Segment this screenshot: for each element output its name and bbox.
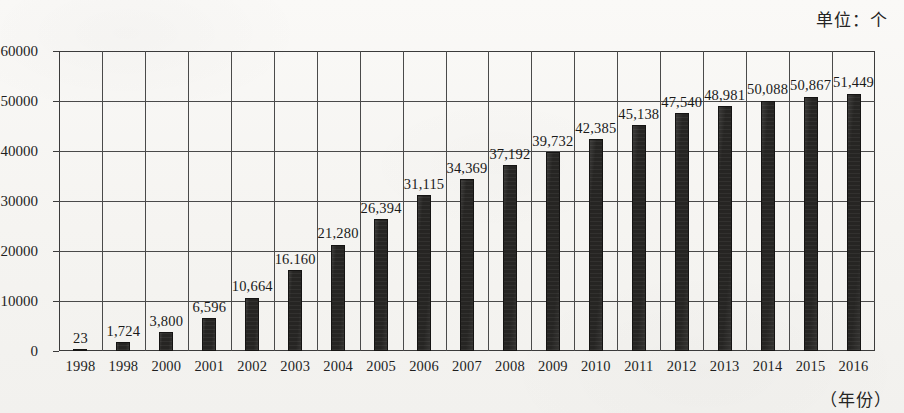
bar-value-label: 34,369: [446, 161, 487, 176]
y-axis-tick-label: 20000: [1, 243, 39, 260]
x-axis-tick-label: 2000: [151, 358, 181, 375]
x-axis-tick-label: 2003: [280, 358, 310, 375]
bar-column: 21,280: [317, 51, 360, 351]
bar: [503, 165, 517, 351]
x-axis-tick-label: 2006: [409, 358, 439, 375]
y-axis-tick-mark: [53, 351, 59, 352]
bar-value-label: 45,138: [618, 107, 659, 122]
bar-value-label: 47,540: [661, 95, 702, 110]
bar-value-label: 50,088: [747, 82, 788, 97]
plot-area: 231,7243,8006,59610,66416.16021,28026,39…: [59, 51, 875, 351]
bar-value-label: 10,664: [232, 279, 273, 294]
bar-column: 47,540: [660, 51, 703, 351]
y-axis-tick-label: 30000: [1, 193, 39, 210]
y-axis-tick-mark: [53, 51, 59, 52]
unit-title: 单位：个: [816, 6, 888, 31]
bar-value-label: 21,280: [318, 226, 359, 241]
bar: [460, 179, 474, 351]
bar: [374, 219, 388, 351]
x-axis-tick-label: 1998: [66, 358, 96, 375]
y-axis-tick-label: 0: [31, 343, 39, 360]
y-axis-tick-mark: [53, 201, 59, 202]
y-axis-tick-label: 60000: [1, 43, 39, 60]
bar-value-label: 50,867: [790, 78, 831, 93]
bar-value-label: 1,724: [107, 324, 141, 339]
bar: [718, 106, 732, 351]
x-axis-tick-label: 2016: [839, 358, 869, 375]
bar-column: 48,981: [703, 51, 746, 351]
bar-column: 34,369: [446, 51, 489, 351]
bar-column: 3,800: [145, 51, 188, 351]
x-axis-tick-label: 2005: [366, 358, 396, 375]
x-axis-tick-label: 1998: [109, 358, 139, 375]
bar: [632, 125, 646, 351]
bar: [331, 245, 345, 351]
x-axis-tick-label: 2013: [710, 358, 740, 375]
x-axis-tick-label: 2011: [624, 358, 653, 375]
bar-value-label: 31,115: [404, 177, 445, 192]
bar: [546, 152, 560, 351]
x-axis-tick-label: 2001: [194, 358, 224, 375]
bar-value-label: 51,449: [833, 75, 874, 90]
bar: [73, 349, 87, 351]
bar-value-label: 42,385: [575, 121, 616, 136]
bar-value-label: 23: [73, 331, 88, 346]
x-axis-tick-label: 2002: [237, 358, 267, 375]
bar-column: 26,394: [360, 51, 403, 351]
x-axis-title: （年份）: [820, 386, 892, 411]
bar-value-label: 39,732: [532, 134, 573, 149]
bar-value-label: 48,981: [704, 88, 745, 103]
bar: [589, 139, 603, 351]
bar-column: 42,385: [574, 51, 617, 351]
bar-column: 31,115: [403, 51, 446, 351]
bar-column: 16.160: [274, 51, 317, 351]
bar: [245, 298, 259, 351]
bar: [761, 101, 775, 351]
bar: [116, 342, 130, 351]
bar-column: 1,724: [102, 51, 145, 351]
bar: [288, 270, 302, 351]
bar: [417, 195, 431, 351]
bar-value-label: 26,394: [361, 201, 402, 216]
bar: [202, 318, 216, 351]
bar-column: 10,664: [231, 51, 274, 351]
y-axis-tick-mark: [53, 251, 59, 252]
bar-column: 45,138: [617, 51, 660, 351]
bar-column: 39,732: [531, 51, 574, 351]
x-axis-tick-label: 2012: [667, 358, 697, 375]
x-axis-tick-label: 2007: [452, 358, 482, 375]
bar-column: 50,867: [789, 51, 832, 351]
bar: [847, 94, 861, 351]
y-axis-tick-mark: [53, 301, 59, 302]
bar-value-label: 16.160: [275, 252, 316, 267]
bar: [804, 97, 818, 351]
bar-value-label: 3,800: [150, 314, 184, 329]
x-axis-tick-label: 2015: [796, 358, 826, 375]
y-axis-tick-label: 10000: [1, 293, 39, 310]
x-axis-tick-label: 2009: [538, 358, 568, 375]
bar-column: 51,449: [832, 51, 875, 351]
bar-column: 37,192: [488, 51, 531, 351]
bar-column: 23: [59, 51, 102, 351]
bar: [675, 113, 689, 351]
x-axis-tick-label: 2010: [581, 358, 611, 375]
bar-column: 50,088: [746, 51, 789, 351]
x-axis-tick-label: 2004: [323, 358, 353, 375]
bar: [159, 332, 173, 351]
y-axis-tick-mark: [53, 101, 59, 102]
bar-value-label: 6,596: [192, 300, 226, 315]
bar-column: 6,596: [188, 51, 231, 351]
y-axis-tick-mark: [53, 151, 59, 152]
y-axis-tick-label: 50000: [1, 93, 39, 110]
bar-value-label: 37,192: [489, 147, 530, 162]
x-axis-tick-label: 2008: [495, 358, 525, 375]
y-axis-tick-label: 40000: [1, 143, 39, 160]
x-axis-tick-label: 2014: [753, 358, 783, 375]
